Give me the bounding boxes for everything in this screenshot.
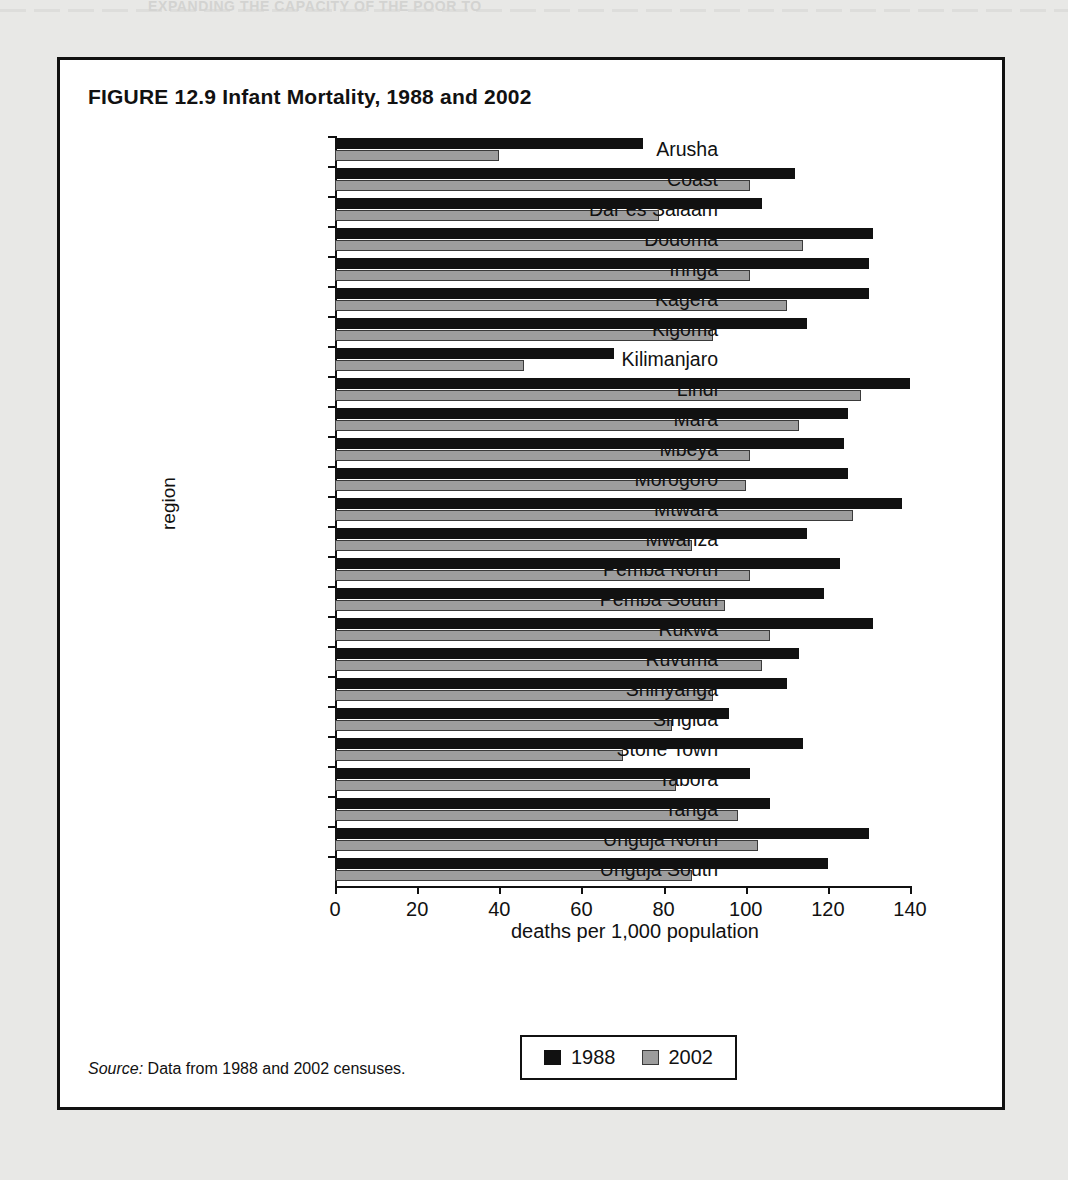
figure-container: FIGURE 12.9 Infant Mortality, 1988 and 2… bbox=[57, 57, 1005, 1110]
bar-1988 bbox=[335, 288, 869, 299]
y-category-label: Arusha bbox=[656, 138, 718, 161]
figure-title: FIGURE 12.9 Infant Mortality, 1988 and 2… bbox=[88, 85, 532, 109]
bar-1988 bbox=[335, 858, 828, 869]
bar-2002 bbox=[335, 390, 861, 401]
y-category-label: Mbeya bbox=[659, 438, 718, 461]
y-category-label: Tanga bbox=[665, 798, 718, 821]
bar-2002 bbox=[335, 300, 787, 311]
x-tick-label: 100 bbox=[729, 898, 762, 921]
legend-label: 1988 bbox=[571, 1046, 616, 1069]
y-category-label: Tabora bbox=[658, 768, 718, 791]
page-running-header: EXPANDING THE CAPACITY OF THE POOR TO bbox=[0, 0, 1068, 22]
y-category-label: Pemba North bbox=[603, 558, 718, 581]
running-head-text: EXPANDING THE CAPACITY OF THE POOR TO bbox=[148, 0, 482, 14]
y-category-label: Dar es Salaam bbox=[589, 198, 718, 221]
bar-2002 bbox=[335, 540, 692, 551]
bar-1988 bbox=[335, 378, 910, 389]
bar-2002 bbox=[335, 240, 803, 251]
bar-group bbox=[335, 408, 910, 438]
bar-group bbox=[335, 528, 910, 558]
y-category-label: Mara bbox=[674, 408, 718, 431]
x-tick bbox=[910, 886, 912, 894]
bar-group bbox=[335, 168, 910, 198]
x-tick-label: 140 bbox=[893, 898, 926, 921]
bar-group bbox=[335, 468, 910, 498]
chart-legend: 19882002 bbox=[520, 1035, 737, 1080]
x-tick-label: 60 bbox=[570, 898, 592, 921]
bar-2002 bbox=[335, 420, 799, 431]
bar-group bbox=[335, 708, 910, 738]
bar-group bbox=[335, 438, 910, 468]
bar-2002 bbox=[335, 150, 499, 161]
bar-group bbox=[335, 678, 910, 708]
bar-1988 bbox=[335, 468, 848, 479]
bar-2002 bbox=[335, 720, 672, 731]
y-category-label: Coast bbox=[667, 168, 718, 191]
y-category-label: Rukwa bbox=[658, 618, 718, 641]
source-label: Source: bbox=[88, 1060, 143, 1077]
y-category-label: Morogoro bbox=[635, 468, 718, 491]
y-category-label: Unguja North bbox=[603, 828, 718, 851]
bar-1988 bbox=[335, 528, 807, 539]
y-category-label: Stone Town bbox=[616, 738, 718, 761]
bar-1988 bbox=[335, 408, 848, 419]
bar-1988 bbox=[335, 138, 643, 149]
y-category-label: Unguja South bbox=[600, 858, 718, 881]
y-category-label: Iringa bbox=[669, 258, 718, 281]
y-category-label: Kagera bbox=[655, 288, 718, 311]
x-tick-label: 40 bbox=[488, 898, 510, 921]
bar-1988 bbox=[335, 228, 873, 239]
bar-1988 bbox=[335, 648, 799, 659]
y-category-label: Pemba South bbox=[600, 588, 718, 611]
plot-area: 020406080100120140 bbox=[335, 136, 935, 886]
y-category-label: Mtwara bbox=[654, 498, 718, 521]
bar-2002 bbox=[335, 360, 524, 371]
y-category-label: Mwanza bbox=[645, 528, 718, 551]
bar-1988 bbox=[335, 258, 869, 269]
bar-group bbox=[335, 768, 910, 798]
y-category-label: Kigoma bbox=[652, 318, 718, 341]
bar-1988 bbox=[335, 438, 844, 449]
bar-1988 bbox=[335, 618, 873, 629]
legend-label: 2002 bbox=[669, 1046, 714, 1069]
bar-2002 bbox=[335, 780, 676, 791]
bar-1988 bbox=[335, 738, 803, 749]
bar-1988 bbox=[335, 678, 787, 689]
y-category-label: Dodoma bbox=[644, 228, 718, 251]
bar-group bbox=[335, 228, 910, 258]
bar-group bbox=[335, 798, 910, 828]
y-category-label: Lindi bbox=[677, 378, 718, 401]
x-tick-label: 20 bbox=[406, 898, 428, 921]
y-category-label: Kilimanjaro bbox=[622, 348, 718, 371]
legend-swatch-2002 bbox=[642, 1050, 659, 1065]
bar-1988 bbox=[335, 318, 807, 329]
y-axis-title: region bbox=[158, 477, 180, 530]
x-tick-label: 0 bbox=[329, 898, 340, 921]
legend-item: 1988 bbox=[544, 1046, 616, 1069]
bar-group bbox=[335, 138, 910, 168]
bar-group bbox=[335, 378, 910, 408]
bar-1988 bbox=[335, 348, 614, 359]
bar-1988 bbox=[335, 828, 869, 839]
figure-source-note: Source: Data from 1988 and 2002 censuses… bbox=[88, 1060, 406, 1078]
bar-group bbox=[335, 318, 910, 348]
bar-group bbox=[335, 618, 910, 648]
source-text: Data from 1988 and 2002 censuses. bbox=[143, 1060, 405, 1077]
bar-1988 bbox=[335, 168, 795, 179]
bar-1988 bbox=[335, 588, 824, 599]
bar-group bbox=[335, 498, 910, 528]
legend-item: 2002 bbox=[642, 1046, 714, 1069]
bar-group bbox=[335, 288, 910, 318]
bar-group bbox=[335, 258, 910, 288]
bar-2002 bbox=[335, 750, 623, 761]
y-category-label: Singida bbox=[653, 708, 718, 731]
x-tick-label: 120 bbox=[811, 898, 844, 921]
y-category-label: Shinyanga bbox=[626, 678, 718, 701]
x-axis-title: deaths per 1,000 population bbox=[335, 920, 935, 943]
x-tick-label: 80 bbox=[652, 898, 674, 921]
legend-swatch-1988 bbox=[544, 1050, 561, 1065]
y-category-label: Ruvuma bbox=[645, 648, 718, 671]
bar-1988 bbox=[335, 558, 840, 569]
bar-1988 bbox=[335, 498, 902, 509]
bar-group bbox=[335, 648, 910, 678]
